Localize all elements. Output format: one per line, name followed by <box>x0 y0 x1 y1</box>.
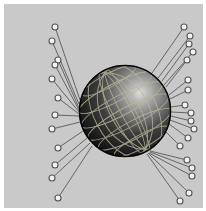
node-circle-icon <box>185 87 191 93</box>
connector-line <box>149 153 192 176</box>
node-circle-icon <box>49 126 55 132</box>
node-circle-icon <box>52 24 58 30</box>
node-circle-icon <box>191 126 197 132</box>
node-circle-icon <box>190 49 196 55</box>
node-circle-icon <box>189 165 195 171</box>
node-circle-icon <box>185 77 191 83</box>
node-circle-icon <box>184 57 190 63</box>
node-circle-icon <box>177 143 183 149</box>
node-circle-icon <box>189 173 195 179</box>
node-circle-icon <box>55 195 61 201</box>
node-circle-icon <box>186 41 192 47</box>
node-circle-icon <box>52 112 58 118</box>
node-circle-icon <box>182 102 188 108</box>
node-circle-icon <box>49 76 55 82</box>
node-circle-icon <box>184 157 190 163</box>
node-circle-icon <box>185 135 191 141</box>
node-circle-icon <box>52 162 58 168</box>
node-circle-icon <box>188 110 194 116</box>
node-circle-icon <box>181 24 187 30</box>
node-circle-icon <box>177 198 183 204</box>
node-circle-icon <box>186 190 192 196</box>
node-circle-icon <box>55 145 61 151</box>
node-circle-icon <box>55 95 61 101</box>
connector-line <box>169 80 188 95</box>
node-circle-icon <box>188 118 194 124</box>
node-circle-icon <box>49 38 55 44</box>
node-circle-icon <box>187 33 193 39</box>
globe-network-illustration <box>0 0 206 211</box>
illustration-canvas <box>0 0 206 211</box>
node-circle-icon <box>52 62 58 68</box>
connector-line <box>52 122 80 129</box>
connector-line <box>52 41 79 104</box>
connector-line <box>58 131 83 148</box>
connector-line <box>55 115 79 116</box>
node-circle-icon <box>49 175 55 181</box>
connector-line <box>58 146 92 198</box>
